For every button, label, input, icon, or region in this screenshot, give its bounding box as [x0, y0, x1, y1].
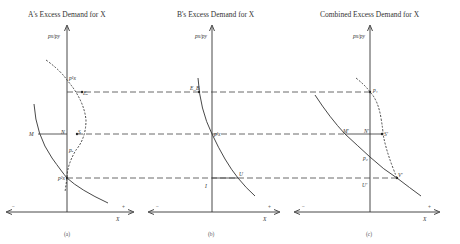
panel-b-pos-sign: + — [268, 203, 271, 209]
panel-a-pos-sign: + — [122, 203, 125, 209]
point-s-prime-marker — [381, 133, 383, 135]
panel-a-demand-curve — [34, 104, 108, 203]
point-eb: E_B — [189, 85, 200, 91]
panel-c-title: Combined Excess Demand for X — [320, 10, 420, 19]
point-m: M — [28, 131, 34, 137]
point-ea: Eₐ — [82, 90, 88, 96]
panel-c-demand-curve — [315, 95, 421, 196]
panel-b-caption: (b) — [208, 231, 215, 238]
panel-c: Combined Excess Demand for X px/py − + X… — [294, 10, 440, 238]
panel-a-x-label: X — [115, 216, 120, 222]
point-n-prime: N' — [363, 128, 370, 134]
panel-a-offer-curve — [46, 60, 86, 192]
panel-b-neg-sign: − — [156, 203, 159, 209]
panel-b-y-label: px/py — [194, 33, 207, 39]
panel-b: B's Excess Demand for X px/py − + X (b) … — [148, 10, 280, 238]
connector-lines — [67, 92, 397, 178]
panel-c-y-label: px/py — [352, 33, 365, 39]
point-i: I — [204, 183, 208, 189]
panel-a-y-label: px/py — [47, 33, 60, 39]
panel-b-x-label: X — [262, 216, 267, 222]
panel-c-x-label: X — [422, 216, 427, 222]
panel-a-neg-sign: − — [12, 203, 15, 209]
point-pa: pₐ — [68, 147, 74, 153]
panel-a-title: A's Excess Demand for X — [28, 10, 106, 19]
point-p2-c: p₂ — [362, 155, 368, 161]
point-n: N — [60, 129, 65, 135]
point-p1-c: p₁ — [372, 87, 378, 93]
panel-a: A's Excess Demand for X px/py − + X (a) … — [6, 10, 134, 238]
point-p2x-a: p²x — [57, 175, 65, 181]
point-s-prime: S' — [384, 131, 389, 137]
panel-a-caption: (a) — [64, 231, 70, 238]
panel-c-caption: (c) — [366, 231, 372, 238]
point-v-prime: V' — [398, 172, 403, 178]
point-p1x-a: p¹x — [68, 75, 76, 81]
panel-c-pos-sign: + — [428, 203, 431, 209]
panel-b-title: B's Excess Demand for X — [177, 10, 255, 19]
panel-c-neg-sign: − — [302, 203, 305, 209]
point-u-prime: U' — [362, 182, 368, 188]
point-u: U — [239, 171, 244, 177]
point-m-prime: M' — [342, 128, 350, 134]
